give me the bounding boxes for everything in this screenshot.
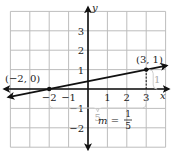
coordinate-plane: −2−1123321−1−2 x y (−2, 0) (3, 1) 5 1 m …	[0, 0, 175, 155]
x-tick-label: −1	[61, 92, 76, 103]
x-tick-label: 3	[143, 92, 149, 103]
point-marker	[47, 87, 51, 91]
y-tick-label: −2	[69, 123, 84, 134]
x-tick-label: 1	[104, 92, 110, 103]
y-tick-label: 3	[78, 26, 84, 37]
x-tick-label: −2	[42, 92, 57, 103]
rise-label: 1	[154, 74, 160, 85]
y-tick-label: 1	[78, 65, 84, 76]
point-label-3-1: (3, 1)	[136, 54, 163, 65]
x-tick-label: 2	[124, 92, 130, 103]
y-axis-label: y	[91, 2, 98, 13]
point-label-neg2-0: (−2, 0)	[5, 73, 40, 84]
y-tick-label: 2	[78, 45, 84, 56]
slope-numerator: 1	[125, 109, 131, 119]
slope-denominator: 5	[125, 121, 131, 131]
y-tick-label: −1	[69, 103, 84, 114]
x-axis-label: x	[160, 90, 166, 101]
slope-label: m =	[98, 115, 119, 126]
